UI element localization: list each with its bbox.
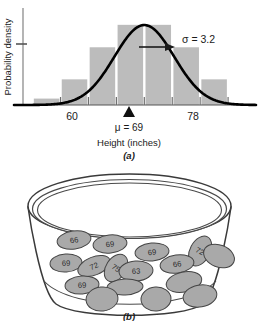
panel-b-bowl: 66696972697275636669 (b) [0,162,259,321]
ticket-value: 69 [147,247,156,257]
panel-a-caption: (a) [123,150,135,161]
y-axis-label: Probability density [2,18,13,95]
normal-distribution-chart: σ = 3.2 60 78 μ = 69 Height (inches) (a)… [0,0,259,162]
sigma-annotation: σ = 3.2 [182,33,215,45]
panel-a-histogram: σ = 3.2 60 78 μ = 69 Height (inches) (a)… [0,0,259,162]
ticket-value: 69 [77,281,86,291]
mean-pointer-triangle [123,106,135,117]
x-tick-label-60: 60 [66,110,78,122]
histogram-bar [118,25,144,105]
bowl-of-tickets-illustration: 66696972697275636669 (b) [0,162,259,321]
mean-label: μ = 69 [115,122,144,133]
panel-b-caption: (b) [123,311,135,321]
ticket-value: 66 [172,259,182,269]
figure-root: σ = 3.2 60 78 μ = 69 Height (inches) (a)… [0,0,259,321]
x-axis-label: Height (inches) [97,137,161,148]
ticket-value: 69 [61,259,70,269]
ticket-value: 69 [105,239,114,249]
x-tick-label-78: 78 [187,110,199,122]
ticket-value: 63 [131,267,140,277]
histogram-bar [146,25,172,105]
bowl-rim-inner [38,183,222,237]
ticket-value: 66 [69,235,79,245]
